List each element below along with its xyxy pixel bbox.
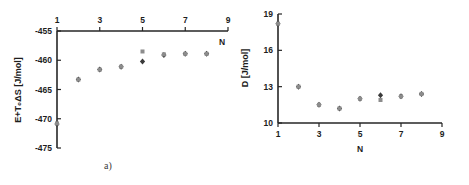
x-tick-label: 9	[440, 129, 445, 139]
x-axis-tick-labels: 13579	[55, 15, 231, 25]
data-point-diamond	[140, 58, 145, 64]
x-tick-label: 5	[140, 15, 145, 25]
data-point-square	[276, 22, 280, 26]
data-points	[54, 49, 209, 127]
data-point-square	[317, 103, 321, 107]
x-axis-tick-labels: 13579	[276, 129, 445, 139]
panel-b-plot: 13579 10131619 N D [J/mol]	[235, 0, 469, 185]
data-point-square	[119, 65, 123, 69]
x-tick-label: 7	[183, 15, 188, 25]
data-point-square	[358, 97, 362, 101]
data-points	[275, 21, 424, 112]
y-tick-label: 10	[264, 118, 274, 128]
y-axis-tick-labels: 10131619	[264, 9, 274, 128]
data-point-diamond	[378, 92, 383, 98]
data-point-square	[338, 106, 342, 110]
data-point-square	[399, 94, 403, 98]
x-tick-label: 3	[97, 15, 102, 25]
figure-container: 13579 -455-460-465-470-475 N E+T₀ΔS [J/m…	[0, 0, 469, 185]
y-tick-label: -470	[35, 114, 52, 124]
panel-a-axes	[57, 27, 228, 148]
data-point-square	[162, 52, 166, 56]
panel-b-axes	[278, 14, 442, 127]
data-point-square	[55, 121, 59, 125]
y-axis-title: D [J/mol]	[240, 49, 250, 88]
y-tick-label: -475	[35, 143, 52, 153]
x-tick-label: 5	[358, 129, 363, 139]
data-point-square	[205, 52, 209, 56]
data-point-square	[141, 49, 145, 53]
panel-b: 13579 10131619 N D [J/mol] b)	[235, 0, 469, 185]
x-tick-label: 7	[399, 129, 404, 139]
data-point-square	[379, 98, 383, 102]
x-tick-label: 9	[226, 15, 231, 25]
panel-a: 13579 -455-460-465-470-475 N E+T₀ΔS [J/m…	[0, 0, 235, 185]
y-tick-label: 13	[264, 82, 274, 92]
y-tick-label: -455	[35, 26, 52, 36]
y-tick-label: 16	[264, 45, 274, 55]
data-point-square	[76, 78, 80, 82]
y-tick-label: -460	[35, 55, 52, 65]
y-axis-title: E+T₀ΔS [J/mol]	[13, 57, 23, 122]
data-point-square	[98, 68, 102, 72]
data-point-square	[183, 52, 187, 56]
y-axis-tick-labels: -455-460-465-470-475	[35, 26, 52, 153]
x-axis-title: N	[219, 37, 225, 47]
x-tick-label: 1	[276, 129, 281, 139]
data-point-square	[297, 85, 301, 89]
panel-a-caption: a)	[104, 160, 112, 171]
y-tick-label: 19	[264, 9, 274, 19]
x-axis-title: N	[357, 144, 363, 154]
x-tick-label: 1	[55, 15, 60, 25]
y-tick-label: -465	[35, 85, 52, 95]
x-tick-label: 3	[317, 129, 322, 139]
data-point-square	[420, 92, 424, 96]
panel-a-plot: 13579 -455-460-465-470-475 N E+T₀ΔS [J/m…	[0, 0, 235, 185]
